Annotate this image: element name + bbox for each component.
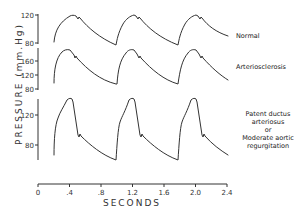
x-axis: 0 .4 .8 1.2 1.6 2.0 2.4 [36, 184, 233, 197]
x-tick-label: 2.4 [221, 189, 233, 197]
y-tick-label: 80 [25, 142, 34, 150]
x-tick-label: 1.2 [127, 189, 138, 197]
x-axis-title: SECONDS [103, 198, 161, 208]
legend-pda-regurgitation: Patent ductus arteriosus or Moderate aor… [242, 110, 294, 150]
legend-line: Moderate aortic [242, 134, 294, 142]
y-tick-label: 80 [25, 40, 34, 48]
y-tick-label: 120 [21, 12, 34, 20]
y-tick-label: 80 [25, 86, 34, 94]
y-tick-label: 160 [21, 58, 34, 66]
waveform-pda-regurgitation [54, 98, 228, 160]
waveform-normal [54, 15, 228, 45]
y-axis-title: PRESSURE (mm.Hg) [14, 23, 24, 145]
x-tick-label: 0 [36, 189, 40, 197]
legend-line: Patent ductus [246, 110, 291, 118]
x-tick-label: .4 [66, 189, 73, 197]
x-tick-label: 2.0 [190, 189, 201, 197]
legend-arteriosclerosis: Arteriosclerosis [236, 63, 287, 71]
legend-line: regurgitation [247, 142, 289, 150]
x-tick-label: 1.6 [158, 189, 170, 197]
pressure-waveform-chart: PRESSURE (mm.Hg) 120 80 160 120 80 120 8… [0, 0, 304, 215]
y-tick-label: 120 [21, 72, 34, 80]
legend-line: arteriosus [252, 118, 285, 126]
waveform-arteriosclerosis [54, 50, 228, 84]
x-tick-label: .8 [98, 189, 105, 197]
y-tick-label: 120 [21, 112, 34, 120]
legend-line: or [265, 126, 272, 134]
legend-normal: Normal [236, 32, 260, 40]
